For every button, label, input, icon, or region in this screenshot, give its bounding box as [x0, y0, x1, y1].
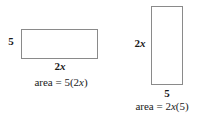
vertical-area-prefix: area = [135, 100, 165, 112]
vertical-area-close-paren: ) [185, 100, 189, 112]
horizontal-rectangle-width-variable: x [60, 60, 66, 72]
vertical-rectangle-height-variable: x [140, 37, 146, 49]
vertical-rectangle-height-label: 2x [128, 37, 152, 49]
vertical-rectangle-width-label: 5 [151, 87, 183, 99]
vertical-rectangle-shape [151, 6, 183, 85]
horizontal-rectangle-area-label: area = 5(2x) [19, 76, 103, 88]
horizontal-rectangle-height-label: 5 [2, 35, 20, 47]
figure-canvas: 5 2x area = 5(2x) 2x 5 area = 2x(5) [0, 0, 202, 120]
horizontal-rectangle-shape [21, 29, 98, 59]
vertical-rectangle-width-value: 5 [164, 87, 170, 99]
vertical-rectangle-area-label: area = 2x(5) [120, 100, 202, 112]
horizontal-rectangle-height-value: 5 [8, 35, 14, 47]
horizontal-area-prefix: area = [34, 76, 64, 88]
horizontal-area-close-paren: ) [84, 76, 88, 88]
horizontal-rectangle-width-label: 2x [44, 60, 76, 72]
